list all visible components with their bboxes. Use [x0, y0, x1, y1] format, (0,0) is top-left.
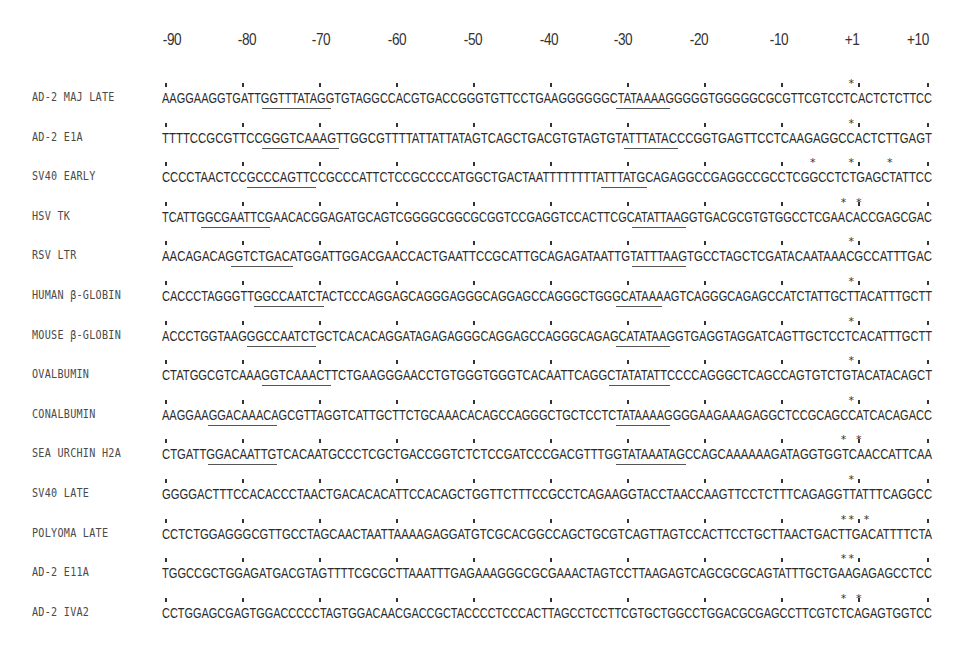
tick-dot-icon [858, 83, 860, 87]
tick-dot-icon [165, 598, 167, 602]
dna-sequence: TCATTGGCGAATTCGAACACGGAGATGCAGTCGGGGCGGC… [162, 208, 958, 230]
tick-dot-icon [781, 241, 783, 245]
tick-dot-icon [704, 598, 706, 602]
gene-label: SEA URCHIN H2A [32, 446, 121, 460]
tick-dot-icon [858, 241, 860, 245]
tick-dot-icon [242, 123, 244, 127]
tick-dot-icon [781, 400, 783, 404]
tick-dot-icon [781, 519, 783, 523]
tick-dot-icon [473, 241, 475, 245]
dna-sequence: AAGGAAGGACAAACAGCGTTAGGTCATTGCTTCTGCAAAC… [162, 406, 958, 428]
motif-underline [201, 227, 270, 228]
sequence-row: HUMAN β-GLOBIN*CACCCTAGGGTTGGCCAATCTACTC… [0, 278, 958, 316]
tick-dot-icon [319, 321, 321, 325]
gene-label: AD-2 MAJ LATE [32, 90, 115, 104]
tick-dot-icon [627, 281, 629, 285]
motif-underline [208, 464, 277, 465]
sequence-row: SV40 EARLY***CCCCTAACTCCGCCCAGTTCCGCCCAT… [0, 159, 958, 197]
tick-dot-icon [927, 598, 929, 602]
tick-dot-icon [242, 400, 244, 404]
tick-dot-icon [473, 360, 475, 364]
tick-dot-icon [396, 519, 398, 523]
motif-underline [208, 425, 277, 426]
tick-dot-icon [165, 400, 167, 404]
axis-tick-label: -40 [540, 30, 558, 50]
tick-dot-icon [242, 360, 244, 364]
gene-label: AD-2 IVA2 [32, 605, 89, 619]
tick-dot-icon [550, 519, 552, 523]
position-axis: -90-80-70-60-50-40-30-20-10+1+10 [0, 30, 958, 60]
gene-label: AD-2 E1A [32, 130, 83, 144]
tick-dot-icon [627, 439, 629, 443]
tick-dot-icon [627, 558, 629, 562]
tick-dot-icon [704, 123, 706, 127]
motif-underline [247, 187, 316, 188]
motif-underline [624, 148, 678, 149]
tick-dot-icon [165, 519, 167, 523]
sequence-row: AD-2 E11A**TGGCCGCTGGAGATGACGTAGTTTTCGCG… [0, 555, 958, 593]
sequence-row: HSV TK**TCATTGGCGAATTCGAACACGGAGATGCAGTC… [0, 199, 958, 237]
tick-dot-icon [242, 281, 244, 285]
tick-dot-icon [704, 281, 706, 285]
tick-dot-icon [550, 479, 552, 483]
sequence-text: TTTTCCGCGTTCCGGGTCAAAGTTGGCGTTTTATTATTAT… [162, 130, 932, 146]
tick-dot-icon [319, 123, 321, 127]
tick-dot-icon [927, 202, 929, 206]
tick-dot-icon [473, 281, 475, 285]
tick-dot-icon [927, 83, 929, 87]
tick-dot-icon [396, 598, 398, 602]
tick-dot-icon [473, 321, 475, 325]
tick-dot-icon [319, 479, 321, 483]
dna-sequence: AAGGAAGGTGATTGGTTTATAGGTGTAGGCCACGTGACCG… [162, 89, 958, 111]
sequence-row: AD-2 MAJ LATE*AAGGAAGGTGATTGGTTTATAGGTGT… [0, 80, 958, 118]
tick-dot-icon [473, 558, 475, 562]
axis-tick-label: +1 [845, 30, 860, 50]
tick-dot-icon [704, 83, 706, 87]
motif-underline [632, 227, 686, 228]
tick-dot-icon [627, 479, 629, 483]
sequence-row: OVALBUMIN*CTATGGCGTCAAAGGTCAAACTTCTGAAGG… [0, 357, 958, 395]
tick-dot-icon [927, 321, 929, 325]
motif-underline [254, 306, 323, 307]
tick-dot-icon [704, 400, 706, 404]
tick-dot-icon [473, 162, 475, 166]
tick-dot-icon [627, 162, 629, 166]
tick-dot-icon [319, 281, 321, 285]
tick-dot-icon [550, 202, 552, 206]
gene-label: AD-2 E11A [32, 565, 89, 579]
sequence-text: GGGGACTTTCCACACCCTAACTGACACACATTCCACAGCT… [162, 486, 932, 502]
dna-sequence: CCTCTGGAGGGCGTTGCCTAGCAACTAATTAAAAGAGGAT… [162, 525, 958, 547]
tick-dot-icon [858, 400, 860, 404]
motif-underline [262, 108, 331, 109]
tick-dot-icon [550, 241, 552, 245]
motif-underline [231, 266, 293, 267]
tick-dot-icon [781, 162, 783, 166]
tick-dot-icon [165, 439, 167, 443]
tick-dot-icon [165, 162, 167, 166]
tick-dot-icon [473, 598, 475, 602]
sequence-row: SEA URCHIN H2A**CTGATTGGACAATTGTCACAATGC… [0, 436, 958, 474]
sequence-row: CONALBUMIN*AAGGAAGGACAAACAGCGTTAGGTCATTG… [0, 397, 958, 435]
tick-dot-icon [858, 519, 860, 523]
tick-dot-icon [319, 202, 321, 206]
tick-dot-icon [781, 321, 783, 325]
tick-dot-icon [781, 202, 783, 206]
tick-dot-icon [242, 598, 244, 602]
tick-dot-icon [319, 439, 321, 443]
motif-underline [616, 425, 670, 426]
tick-dot-icon [704, 162, 706, 166]
motif-underline [616, 108, 670, 109]
tick-dot-icon [704, 479, 706, 483]
tick-dot-icon [627, 241, 629, 245]
tick-dot-icon [319, 241, 321, 245]
tick-dot-icon [473, 519, 475, 523]
tick-dot-icon [319, 83, 321, 87]
axis-tick-label: -20 [690, 30, 708, 50]
tick-dot-icon [704, 202, 706, 206]
tick-dot-icon [781, 479, 783, 483]
tick-dot-icon [927, 400, 929, 404]
tick-dot-icon [319, 162, 321, 166]
axis-tick-label: -90 [163, 30, 181, 50]
tick-dot-icon [858, 479, 860, 483]
tick-dot-icon [396, 439, 398, 443]
